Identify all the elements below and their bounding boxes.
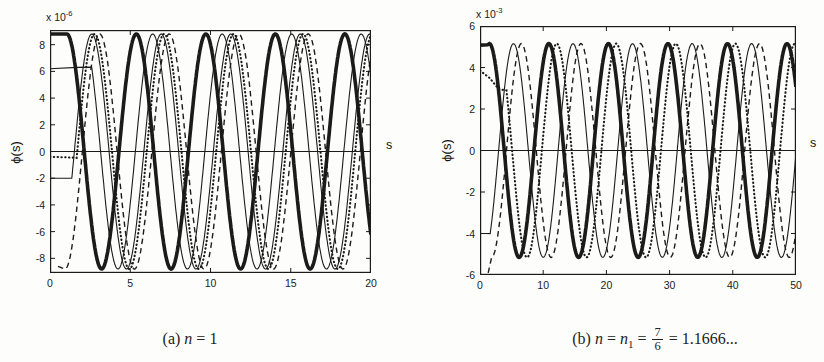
y-tick-label: 0 (451, 146, 475, 157)
x-tick-label: 0 (35, 278, 65, 289)
y-tick-label: -4 (21, 200, 45, 211)
y-tick-label: -8 (21, 253, 45, 264)
x-tick-label: 10 (196, 278, 226, 289)
y-tick-label: 4 (21, 93, 45, 104)
x-axis-label-b: s (810, 136, 816, 150)
y-scale-label-b: x 10-3 (476, 6, 503, 20)
x-tick-label: 15 (276, 278, 306, 289)
y-scale-label-a: x 10-6 (46, 9, 73, 23)
plot-area-b (480, 26, 796, 275)
y-tick-label: 8 (21, 40, 45, 51)
y-tick-label: -6 (21, 227, 45, 238)
y-tick-label: -6 (451, 270, 475, 281)
caption-a: (a) n = 1 (95, 330, 285, 348)
figure-two-panel-phase-plots: x 10-6 ϕ(s) s x 10-3 ϕ(s) s (a) n = 1 (b… (0, 0, 824, 362)
y-tick-label: 2 (451, 104, 475, 115)
y-tick-label: 0 (21, 147, 45, 158)
y-tick-label: 2 (21, 120, 45, 131)
y-tick-label: -2 (451, 187, 475, 198)
x-tick-label: 0 (465, 280, 495, 291)
fraction-7-6: 76 (652, 326, 662, 353)
caption-b: (b) n = n1 = 76 = 1.1666... (510, 326, 800, 353)
y-tick-label: 6 (21, 66, 45, 77)
y-tick-label: 6 (451, 21, 475, 32)
x-tick-label: 10 (528, 280, 558, 291)
y-tick-label: -2 (21, 173, 45, 184)
x-axis-label-a: s (386, 138, 392, 152)
x-tick-label: 5 (115, 278, 145, 289)
plot-area-a (50, 30, 371, 273)
x-tick-label: 50 (781, 280, 811, 291)
x-tick-label: 30 (655, 280, 685, 291)
x-tick-label: 20 (591, 280, 621, 291)
x-tick-label: 40 (718, 280, 748, 291)
x-tick-label: 20 (356, 278, 386, 289)
y-tick-label: 4 (451, 63, 475, 74)
y-tick-label: -4 (451, 229, 475, 240)
